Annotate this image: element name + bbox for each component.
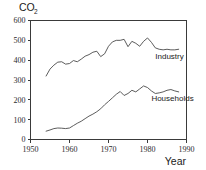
y-axis-title: CO (19, 1, 35, 13)
x-axis-title: Year (165, 155, 187, 167)
xtick-label-1970: 1970 (101, 145, 117, 154)
chart-canvas: 010020030040050060019501960197019801990I… (0, 0, 206, 170)
ytick-label-100: 100 (14, 116, 26, 125)
ytick-label-0: 0 (22, 135, 26, 144)
series-label-households: Households (151, 94, 193, 103)
ytick-label-200: 200 (14, 96, 26, 105)
ytick-label-600: 600 (14, 16, 26, 25)
xtick-label-1980: 1980 (140, 145, 156, 154)
series-line-households (46, 86, 179, 131)
xtick-label-1950: 1950 (23, 145, 39, 154)
axis-frame (31, 21, 187, 140)
xtick-label-1960: 1960 (62, 145, 78, 154)
y-axis-title-subscript: 2 (34, 8, 38, 15)
xtick-label-1990: 1990 (179, 145, 195, 154)
ytick-label-300: 300 (14, 76, 26, 85)
ytick-label-400: 400 (14, 56, 26, 65)
co2-emissions-line-chart: 010020030040050060019501960197019801990I… (0, 0, 206, 170)
ytick-label-500: 500 (14, 36, 26, 45)
series-label-industry: Industry (155, 52, 183, 61)
